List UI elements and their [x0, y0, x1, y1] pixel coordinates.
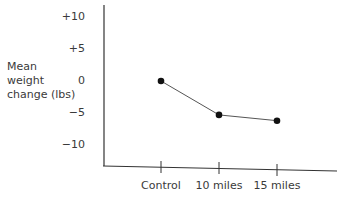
data-point-15-miles	[274, 117, 281, 124]
data-point-10-miles	[216, 112, 223, 119]
x-tick-label-15-miles: 15 miles	[242, 179, 312, 193]
x-axis	[103, 166, 337, 171]
series-markers	[158, 78, 281, 124]
data-point-control	[158, 78, 165, 85]
plot-area	[0, 0, 348, 200]
